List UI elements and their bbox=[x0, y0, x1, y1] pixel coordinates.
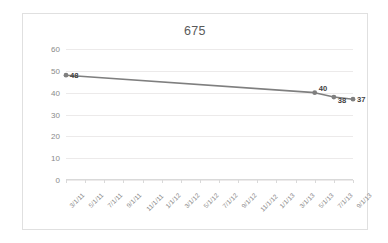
x-axis-tick: 3/1/11 bbox=[68, 191, 86, 209]
x-axis-tick: 5/1/11 bbox=[87, 191, 105, 209]
chart-frame: 675 6050403020100 3/1/115/1/117/1/119/1/… bbox=[22, 13, 368, 230]
x-axis-tickmark bbox=[85, 180, 86, 183]
y-axis-tick: 0 bbox=[56, 176, 60, 185]
x-axis-tickmark bbox=[66, 180, 67, 183]
x-axis-tick: 5/1/12 bbox=[202, 191, 220, 209]
x-axis-tickmark bbox=[296, 180, 297, 183]
y-axis-tick: 60 bbox=[51, 45, 60, 54]
x-axis-tick: 1/1/12 bbox=[164, 191, 182, 209]
y-axis-tick: 30 bbox=[51, 110, 60, 119]
data-point-marker bbox=[331, 95, 336, 100]
x-axis-tickmark bbox=[315, 180, 316, 183]
x-axis-tick: 9/1/11 bbox=[125, 191, 143, 209]
x-axis-tickmark bbox=[238, 180, 239, 183]
y-axis-tick: 40 bbox=[51, 88, 60, 97]
x-axis-tickmark bbox=[181, 180, 182, 183]
gridline bbox=[66, 180, 353, 181]
series-line-675 bbox=[66, 49, 353, 180]
x-axis-tick: 11/1/11 bbox=[144, 192, 164, 212]
x-axis-tick: 11/1/12 bbox=[259, 193, 279, 213]
x-axis-tickmark bbox=[219, 180, 220, 183]
y-axis-tick: 20 bbox=[51, 132, 60, 141]
data-point-marker bbox=[351, 97, 356, 102]
x-axis-tick: 7/1/12 bbox=[221, 191, 239, 209]
x-axis-tick: 9/1/13 bbox=[355, 191, 373, 209]
x-axis-tick: 1/1/13 bbox=[278, 191, 296, 209]
data-label: 38 bbox=[338, 96, 346, 105]
x-axis-tick: 3/1/12 bbox=[183, 191, 201, 209]
plot-area: 6050403020100 3/1/115/1/117/1/119/1/1111… bbox=[66, 49, 353, 180]
x-axis-tickmark bbox=[276, 180, 277, 183]
series-line bbox=[66, 75, 353, 99]
x-axis-tickmark bbox=[104, 180, 105, 183]
x-axis-tick: 3/1/13 bbox=[297, 191, 315, 209]
x-axis-tick: 7/1/13 bbox=[336, 191, 354, 209]
data-point-marker bbox=[312, 90, 317, 95]
x-axis-tick: 9/1/12 bbox=[240, 191, 258, 209]
x-axis-tickmark bbox=[353, 180, 354, 183]
x-axis-tickmark bbox=[200, 180, 201, 183]
x-axis-tickmark bbox=[334, 180, 335, 183]
x-axis-tickmark bbox=[257, 180, 258, 183]
chart-title: 675 bbox=[23, 24, 367, 38]
y-axis-tick: 50 bbox=[51, 66, 60, 75]
data-label: 48 bbox=[70, 71, 78, 80]
x-axis-tickmark bbox=[143, 180, 144, 183]
data-label: 40 bbox=[319, 83, 327, 92]
data-label: 37 bbox=[357, 95, 365, 104]
x-axis-tick: 7/1/11 bbox=[106, 191, 124, 209]
x-axis-tickmark bbox=[162, 180, 163, 183]
y-axis-tick: 10 bbox=[51, 154, 60, 163]
x-axis-tick: 5/1/13 bbox=[317, 191, 335, 209]
x-axis-tickmark bbox=[123, 180, 124, 183]
data-point-marker bbox=[64, 73, 69, 78]
